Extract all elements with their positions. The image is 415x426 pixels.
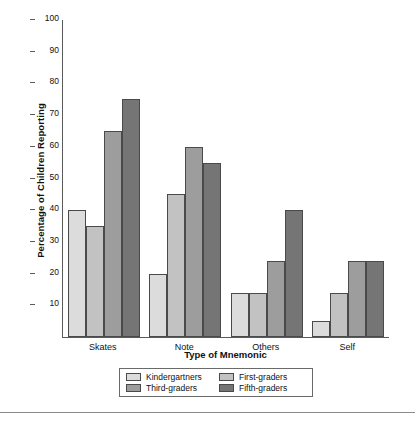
y-axis-tick-mark: [30, 273, 35, 274]
y-axis-tick-mark: [30, 51, 35, 52]
legend-entry: Fifth-graders: [219, 383, 306, 393]
y-axis-tick-label: 50: [50, 172, 59, 182]
y-axis-tick-mark: [30, 178, 35, 179]
y-axis-tick: 30: [24, 241, 68, 242]
bar-group: [231, 20, 303, 337]
bar: [167, 194, 185, 337]
chart-legend: KindergartnersFirst-gradersThird-graders…: [119, 368, 313, 397]
y-axis-tick-label: 90: [50, 45, 59, 55]
bar: [267, 261, 285, 337]
bar: [68, 210, 86, 337]
legend-swatch: [219, 373, 234, 381]
y-axis-tick-label: 20: [50, 267, 59, 277]
bar: [366, 261, 384, 337]
y-axis-tick: 20: [24, 273, 68, 274]
legend-entry: Kindergartners: [126, 372, 213, 382]
bar: [203, 163, 221, 337]
y-axis-tick-label: 30: [50, 235, 59, 245]
bar: [285, 210, 303, 337]
y-axis-tick: 50: [24, 178, 68, 179]
bottom-divider: [0, 412, 415, 413]
bars-layer: [63, 20, 389, 337]
bar: [122, 99, 140, 337]
bar-group: [68, 20, 140, 337]
bar: [231, 293, 249, 337]
bar: [185, 147, 203, 337]
bar-group: [312, 20, 384, 337]
y-axis-tick-mark: [30, 82, 35, 83]
y-axis-tick-mark: [30, 241, 35, 242]
legend-label: Kindergartners: [146, 372, 202, 382]
y-axis-tick-mark: [30, 19, 35, 20]
y-axis-tick: 60: [24, 146, 68, 147]
legend-entry: Third-graders: [126, 383, 213, 393]
y-axis-tick: 100: [24, 19, 68, 20]
y-axis-tick-label: 80: [50, 76, 59, 86]
y-axis-title: Percentage of Children Reporting: [35, 61, 46, 301]
bar-group: [149, 20, 221, 337]
y-axis-tick: 70: [24, 114, 68, 115]
plot-area: 102030405060708090100 SkatesNoteOthersSe…: [62, 20, 389, 337]
legend-label: Third-graders: [146, 383, 197, 393]
y-axis-tick-label: 100: [45, 13, 59, 23]
y-axis-tick-label: 70: [50, 108, 59, 118]
bar: [348, 261, 366, 337]
legend-entry: First-graders: [219, 372, 306, 382]
x-axis-line: [62, 337, 389, 338]
bar: [312, 321, 330, 337]
y-axis-tick-label: 40: [50, 203, 59, 213]
bar: [249, 293, 267, 337]
y-axis-tick-label: 60: [50, 140, 59, 150]
legend-label: Fifth-graders: [239, 383, 287, 393]
x-axis-title: Type of Mnemonic: [62, 349, 389, 360]
legend-swatch: [126, 373, 141, 381]
y-axis-tick-mark: [30, 209, 35, 210]
bar: [86, 226, 104, 337]
legend-label: First-graders: [239, 372, 287, 382]
y-axis-tick: 80: [24, 82, 68, 83]
y-axis-tick-label: 10: [50, 298, 59, 308]
y-axis-tick: 40: [24, 209, 68, 210]
y-axis-tick: 90: [24, 51, 68, 52]
y-axis-tick-mark: [30, 304, 35, 305]
y-axis-tick-mark: [30, 114, 35, 115]
legend-swatch: [219, 384, 234, 392]
bar: [330, 293, 348, 337]
legend-swatch: [126, 384, 141, 392]
bar: [104, 131, 122, 337]
bar: [149, 274, 167, 337]
y-axis-tick: 10: [24, 304, 68, 305]
y-axis-tick-mark: [30, 146, 35, 147]
bar-chart-figure: Percentage of Children Reporting 1020304…: [0, 0, 415, 426]
